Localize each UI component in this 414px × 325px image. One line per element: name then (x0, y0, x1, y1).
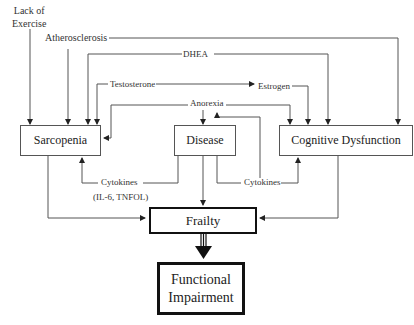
edge-disease-cytokines-right (217, 155, 241, 183)
factor-lack-of-exercise-line2: Exercise (12, 17, 46, 30)
factor-lack-of-exercise-line1: Lack of (12, 4, 46, 17)
edge-disease-cytokines-left (143, 155, 178, 183)
factor-cytokines-right: Cytokines (244, 178, 281, 187)
box-sarcopenia-label: Sarcopenia (34, 133, 87, 148)
edge-testosterone-sarcopenia (97, 84, 108, 124)
factor-atherosclerosis: Atherosclerosis (45, 33, 107, 43)
factor-anorexia: Anorexia (190, 99, 224, 108)
box-functional-impairment: Functional Impairment (157, 262, 245, 315)
box-functional-impairment-line1: Functional (171, 271, 231, 289)
edge-estrogen-cognitive (292, 86, 308, 124)
factor-cytokines-left: Cytokines (101, 178, 138, 187)
box-frailty: Frailty (149, 207, 257, 234)
edge-cytokines-cognitive (281, 158, 298, 183)
frailty-pathway-diagram: Lack of Exercise Atherosclerosis DHEA Te… (0, 0, 414, 325)
box-sarcopenia: Sarcopenia (20, 125, 101, 156)
box-disease-label: Disease (186, 133, 223, 148)
factor-lack-of-exercise: Lack of Exercise (12, 4, 46, 30)
box-frailty-label: Frailty (186, 213, 221, 229)
factor-dhea: DHEA (183, 50, 208, 59)
factor-cytokines-left-detail: (IL-6, TNFOL) (93, 193, 148, 202)
factor-estrogen: Estrogen (258, 82, 290, 91)
box-disease: Disease (174, 125, 236, 156)
box-cognitive-dysfunction-label: Cognitive Dysfunction (291, 133, 401, 148)
edge-anorexia-cognitive (226, 105, 290, 124)
edge-frailty-functional-impairment (195, 233, 212, 259)
factor-testosterone: Testosterone (110, 80, 155, 89)
edge-cytokines-sarcopenia (82, 158, 98, 183)
box-functional-impairment-line2: Impairment (168, 289, 233, 307)
box-cognitive-dysfunction: Cognitive Dysfunction (279, 125, 413, 156)
edge-dhea-sarcopenia (88, 54, 182, 124)
